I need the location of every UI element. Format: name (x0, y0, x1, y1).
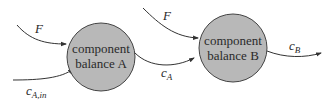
node-b-line2: balance B (207, 48, 259, 63)
edge-a-to-b: cA (135, 53, 194, 82)
arrow-cain-to-a (13, 69, 73, 80)
node-component-balance-a: component balance A (67, 23, 135, 91)
label-cb: cB (289, 38, 301, 55)
node-a-line1: component (72, 41, 130, 56)
arrow-a-to-b (135, 53, 194, 65)
component-balance-diagram: F cA,in component balance A F cA compone… (0, 0, 332, 103)
node-component-balance-b: component balance B (199, 14, 267, 82)
label-f-b: F (162, 8, 172, 23)
edge-f-to-a: F (17, 21, 66, 44)
edge-cain-to-a: cA,in (13, 69, 73, 100)
edge-b-out: cB (267, 38, 321, 57)
label-cain: cA,in (26, 83, 47, 100)
label-ca: cA (161, 65, 173, 82)
label-f-a: F (34, 21, 44, 36)
edge-f-to-b: F (143, 8, 198, 38)
node-b-line1: component (204, 33, 262, 48)
node-a-line2: balance A (75, 56, 127, 71)
